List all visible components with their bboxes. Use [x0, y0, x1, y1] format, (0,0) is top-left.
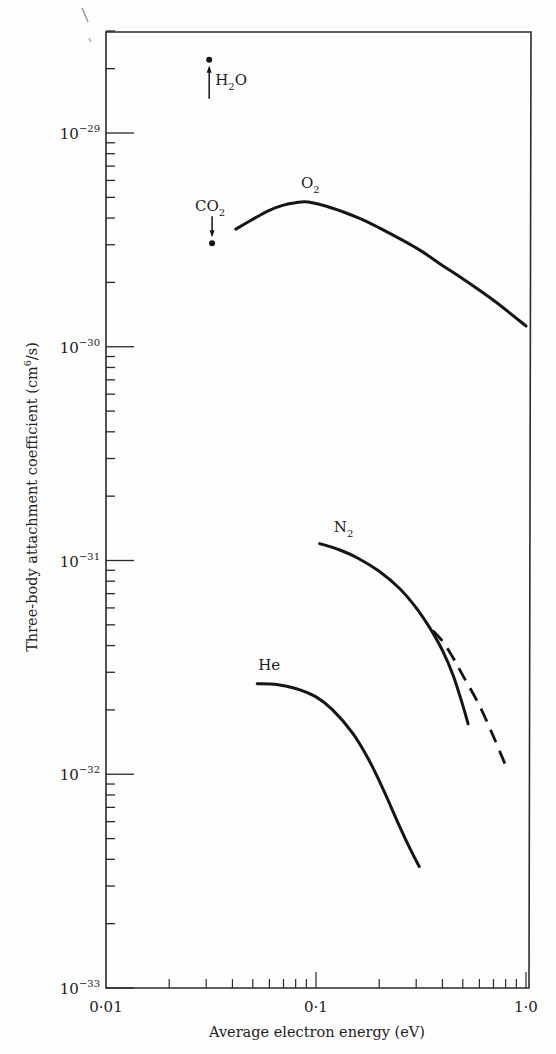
x-axis-title: Average electron energy (eV)	[208, 1024, 425, 1040]
y-tick-label: 10−32	[60, 764, 100, 784]
y-tick-label: 10−29	[60, 123, 100, 143]
axis-titles: Average electron energy (eV) Three-body …	[22, 342, 425, 1040]
y-axis-tick-labels: 10−2910−3010−3110−3210−33	[60, 123, 100, 998]
point-label-h2o: H2O	[215, 71, 247, 92]
point-label-co2: CO2	[195, 197, 225, 218]
data-series: O2N2He	[236, 174, 526, 866]
series-he	[257, 684, 419, 867]
x-tick-label: 0·1	[304, 998, 328, 1016]
y-tick-label: 10−31	[60, 551, 100, 571]
y-axis-title: Three-body attachment coefficient (cm6/s…	[22, 342, 40, 652]
series-label-n2: N2	[334, 518, 354, 539]
plot-border	[106, 32, 531, 988]
point-h2o	[206, 57, 212, 63]
scan-mark	[82, 8, 91, 42]
chart-canvas: 10−2910−3010−3110−3210−33 0·010·11·0 O2N…	[0, 0, 556, 1054]
y-tick-label: 10−33	[60, 978, 100, 998]
x-tick-label: 1·0	[514, 998, 538, 1016]
data-points: H2OCO2	[195, 57, 247, 246]
series-o2	[236, 202, 526, 326]
arrowhead-up-icon	[207, 66, 212, 73]
arrowhead-down-icon	[210, 230, 215, 237]
series-n2	[320, 544, 469, 724]
x-axis-ticks	[169, 972, 526, 988]
x-tick-label: 0·01	[89, 998, 122, 1016]
plot-frame	[106, 32, 531, 988]
y-axis-ticks	[106, 31, 134, 988]
y-tick-label: 10−30	[60, 337, 100, 357]
x-axis-tick-labels: 0·010·11·0	[89, 998, 538, 1016]
series-label-he: He	[258, 656, 280, 674]
point-co2	[209, 240, 215, 246]
series-label-o2: O2	[301, 174, 320, 195]
